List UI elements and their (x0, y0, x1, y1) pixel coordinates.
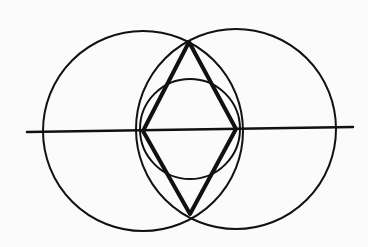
vesica-piscis-diagram (0, 0, 368, 247)
horizontal-axis-line (27, 127, 353, 132)
